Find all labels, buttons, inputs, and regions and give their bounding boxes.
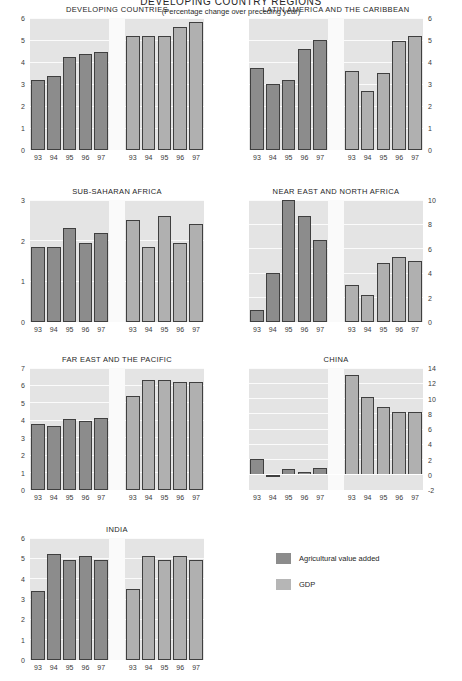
chart-figure: DEVELOPING COUNTRY REGIONS (Percentage c…: [0, 0, 462, 681]
group-separator: [109, 538, 125, 660]
legend-label: GDP: [299, 580, 315, 589]
x-axis-tick-label: 95: [156, 664, 172, 671]
x-axis-tick-label: 93: [125, 664, 141, 671]
bar: [158, 560, 172, 660]
panel-title: INDIA: [30, 525, 204, 534]
y-axis-tick-label: 5: [3, 555, 25, 562]
x-axis-tick-label: 96: [172, 664, 188, 671]
y-axis-tick-label: 1: [3, 636, 25, 643]
y-axis-tick-label: 3: [3, 596, 25, 603]
bar: [126, 589, 140, 660]
x-axis-tick-label: 97: [188, 664, 204, 671]
x-axis-tick-label: 94: [141, 664, 157, 671]
bar: [79, 556, 93, 660]
legend-item: GDP: [276, 579, 315, 590]
legend-swatch-icon: [276, 579, 291, 590]
chart-legend: Agricultural value addedGDP: [276, 553, 456, 603]
y-axis-tick-label: 0: [3, 657, 25, 664]
y-axis-tick-label: 6: [3, 535, 25, 542]
x-axis-tick-label: 95: [62, 664, 78, 671]
bar: [173, 556, 187, 660]
bar: [31, 591, 45, 660]
legend-swatch-icon: [276, 553, 291, 564]
bar: [94, 560, 108, 660]
x-axis-tick-label: 97: [93, 664, 109, 671]
legend-item: Agricultural value added: [276, 553, 379, 564]
bar: [47, 554, 61, 660]
y-axis-tick-label: 4: [3, 575, 25, 582]
x-axis-tick-label: 96: [78, 664, 94, 671]
x-axis-tick-label: 94: [46, 664, 62, 671]
plot-area: [30, 538, 204, 660]
x-axis-tick-label: 93: [30, 664, 46, 671]
bar: [142, 556, 156, 660]
bar: [189, 560, 203, 660]
bar: [63, 560, 77, 660]
y-axis-tick-label: 2: [3, 616, 25, 623]
legend-label: Agricultural value added: [299, 554, 379, 563]
